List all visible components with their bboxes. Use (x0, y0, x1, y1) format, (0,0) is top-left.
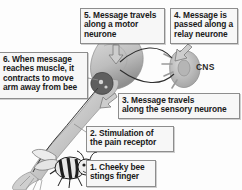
callout-step-6: 6. When message reaches muscle, it contr… (0, 52, 88, 99)
callout-step-4-line-3: relay neurone (174, 30, 234, 39)
callout-step-2-line-2: the pain receptor (90, 138, 170, 147)
diagram-canvas: 5. Message travels along a motor neurone… (0, 0, 242, 190)
callout-step-5: 5. Message travels along a motor neurone (80, 8, 165, 44)
callout-step-5-line-3: neurone (84, 30, 161, 39)
callout-step-3: 3. Message travels along the sensory neu… (118, 93, 240, 119)
pain-receptor-shape (91, 72, 113, 94)
callout-step-1: 1. Cheeky bee stings finger (86, 160, 156, 187)
callout-step-3-line-2: along the sensory neurone (122, 105, 236, 114)
callout-step-1-line-2: stings finger (90, 172, 152, 181)
cns-label: CNS (196, 62, 215, 72)
callout-step-6-line-4: arm away from bee (3, 83, 84, 92)
callout-step-4: 4. Message is passed along a relay neuro… (170, 8, 238, 44)
callout-step-2: 2. Stimulation of the pain receptor (86, 126, 174, 152)
